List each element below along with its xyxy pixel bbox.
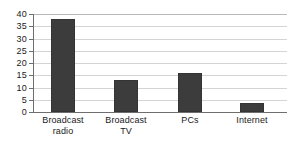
x-axis-line — [33, 112, 287, 113]
bar-pcs — [178, 73, 202, 112]
y-tick-label: 15 — [1, 71, 27, 80]
y-tick-label: 30 — [1, 35, 27, 44]
bars — [33, 14, 287, 112]
bar-chart: 40 35 30 25 20 15 10 5 0 — [0, 0, 299, 145]
y-tick-label: 5 — [1, 96, 27, 105]
y-tick-label: 25 — [1, 47, 27, 56]
x-axis-labels: Broadcast radio Broadcast TV PCs Interne… — [33, 115, 287, 145]
x-tick-label-internet: Internet — [222, 115, 282, 126]
bar-broadcast-radio — [51, 19, 75, 112]
y-tick-label: 20 — [1, 59, 27, 68]
x-tick-label-broadcast-radio: Broadcast radio — [33, 115, 93, 137]
x-tick-label-pcs: PCs — [160, 115, 220, 126]
x-tick-label-broadcast-tv: Broadcast TV — [96, 115, 156, 137]
x-label-line-1: Broadcast — [96, 115, 156, 126]
x-label-line-2: TV — [96, 126, 156, 137]
y-axis-labels: 40 35 30 25 20 15 10 5 0 — [0, 14, 27, 112]
y-tick-label: 40 — [1, 10, 27, 19]
x-label-line-1: PCs — [160, 115, 220, 126]
plot-area — [33, 14, 287, 112]
y-tick-label: 10 — [1, 84, 27, 93]
y-tick-label: 0 — [1, 108, 27, 117]
bar-internet — [240, 103, 264, 112]
y-axis-line — [33, 14, 34, 112]
x-label-line-2: radio — [33, 126, 93, 137]
bar-broadcast-tv — [114, 80, 138, 112]
y-tick-label: 35 — [1, 22, 27, 31]
x-label-line-1: Internet — [222, 115, 282, 126]
x-label-line-1: Broadcast — [33, 115, 93, 126]
